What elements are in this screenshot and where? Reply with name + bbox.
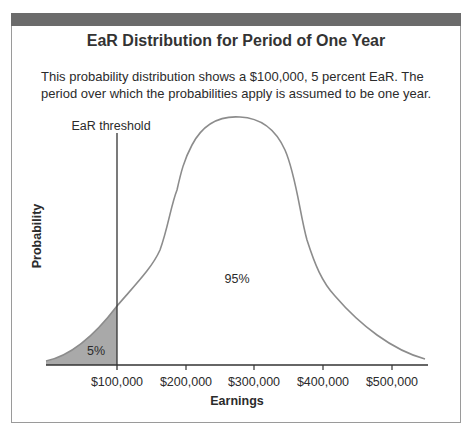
shaded-tail-area [46, 306, 117, 365]
x-tick-label: $500,000 [366, 375, 418, 389]
x-tick-label: $100,000 [91, 375, 143, 389]
chart-plot: EaR threshold 5% 95% Probability Earning… [0, 0, 471, 433]
x-tick-label: $400,000 [297, 375, 349, 389]
y-axis-label: Probability [30, 204, 44, 269]
x-tick-label: $200,000 [160, 375, 212, 389]
x-axis-label: Earnings [210, 394, 264, 408]
ear-threshold-label: EaR threshold [71, 119, 150, 133]
body-percent-label: 95% [224, 272, 249, 286]
x-tick-labels: $100,000 $200,000 $300,000 $400,000 $500… [91, 375, 418, 389]
x-tick-label: $300,000 [228, 375, 280, 389]
x-axis-ticks [186, 365, 392, 370]
left-tail-percent-label: 5% [87, 344, 105, 358]
